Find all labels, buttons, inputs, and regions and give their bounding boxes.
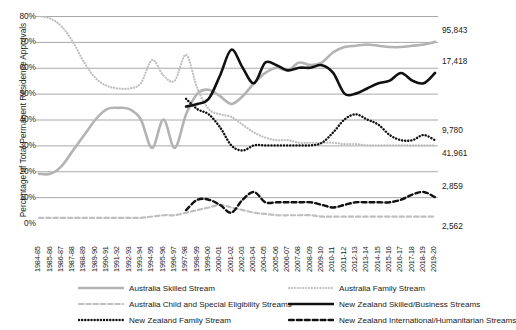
x-tick-label: 2019-20 [429,246,438,272]
y-tick-label: 20% [0,166,36,176]
legend-item[interactable]: Australia Child and Special Eligibility … [78,299,292,309]
y-tick-label: 80% [0,11,36,21]
chart-legend: Australia Skilled StreamAustralia Family… [0,283,484,329]
x-tick-label: 1992-93 [124,246,133,272]
legend-item[interactable]: New Zealand Skilled/Business Streams [288,299,480,309]
x-tick-label: 2000-01 [214,246,223,272]
x-tick-label: 2017-18 [407,246,416,272]
legend-label: New Zealand Family Stream [129,316,231,325]
legend-swatch-icon [78,283,124,293]
end-value-label: 41,961 [442,148,467,158]
legend-swatch-icon [288,315,334,325]
y-tick-label: 60% [0,62,36,72]
x-tick-label: 2010-11 [327,247,336,272]
series-line-0 [39,42,435,175]
x-tick-label: 2014-15 [373,246,382,272]
series-lines [36,16,438,223]
series-line-2 [39,205,435,218]
x-tick-label: 2015-16 [384,246,393,272]
series-line-5 [186,192,435,213]
end-value-label: 2,859 [442,181,463,191]
x-tick-label: 2003-04 [248,246,257,272]
y-tick-label: 10% [0,192,36,202]
x-tick-label: 2016-17 [395,246,404,272]
x-tick-label: 2001-02 [226,246,235,272]
x-tick-label: 1993-94 [135,246,144,272]
end-value-label: 9,780 [442,125,463,135]
x-tick-label: 1996-97 [169,246,178,272]
y-tick-label: 70% [0,36,36,46]
legend-label: Australia Skilled Stream [129,284,215,293]
legend-label: New Zealand International/Humanitarian S… [339,316,516,325]
legend-swatch-icon [78,315,124,325]
y-tick-label: 40% [0,114,36,124]
x-tick-label: 1984-85 [33,246,42,272]
legend-item[interactable]: New Zealand International/Humanitarian S… [288,315,516,325]
x-tick-label: 2011-12 [339,247,348,272]
x-tick-label: 2012-13 [350,246,359,272]
x-tick-label: 1995-96 [158,246,167,272]
x-tick-label: 1990-91 [101,246,110,272]
x-tick-label: 2002-03 [237,246,246,272]
x-tick-label: 2005-06 [271,246,280,272]
end-value-label: 17,418 [442,56,467,66]
legend-label: New Zealand Skilled/Business Streams [339,300,480,309]
end-value-label: 2,562 [442,221,463,231]
x-tick-label: 2013-14 [361,246,370,272]
x-tick-label: 2004-05 [259,246,268,272]
end-value-label: 95,843 [442,25,467,35]
legend-item[interactable]: Australia Family Stream [288,283,425,293]
x-tick-label: 1987-88 [67,246,76,272]
legend-swatch-icon [78,299,124,309]
x-axis-tick-labels: 1984-851985-861986-871987-881988-891989-… [36,226,438,272]
x-tick-label: 2008-09 [305,246,314,272]
legend-item[interactable]: Australia Skilled Stream [78,283,215,293]
x-tick-label: 2007-08 [293,246,302,272]
plot-area [36,16,438,223]
y-tick-label: 0% [0,218,36,228]
x-tick-label: 1988-89 [78,246,87,272]
x-tick-label: 2018-19 [418,246,427,272]
y-tick-label: 50% [0,88,36,98]
x-tick-label: 2009-10 [316,246,325,272]
x-tick-label: 1999-00 [203,246,212,272]
x-tick-label: 1986-87 [56,246,65,272]
x-tick-label: 2006-07 [282,246,291,272]
legend-swatch-icon [288,283,334,293]
legend-swatch-icon [288,299,334,309]
legend-label: Australia Child and Special Eligibility … [129,300,292,309]
x-tick-label: 1991-92 [112,246,121,272]
x-tick-label: 1989-90 [90,246,99,272]
legend-item[interactable]: New Zealand Family Stream [78,315,231,325]
x-tick-label: 1985-86 [45,246,54,272]
series-line-1 [39,16,435,145]
legend-label: Australia Family Stream [339,284,425,293]
x-tick-label: 1998-99 [192,246,201,272]
y-tick-label: 30% [0,140,36,150]
x-tick-label: 1994-95 [146,246,155,272]
x-tick-label: 1997-98 [180,246,189,272]
